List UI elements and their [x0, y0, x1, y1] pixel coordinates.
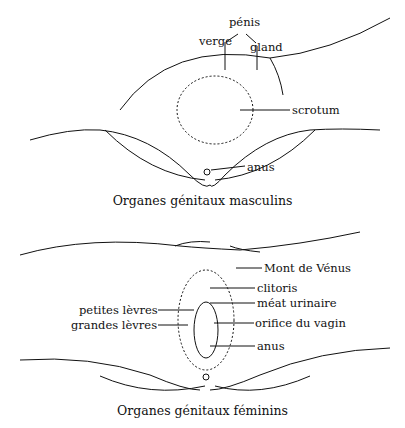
caption-male: Organes génitaux masculins — [0, 193, 405, 208]
label-scrotum: scrotum — [292, 104, 340, 116]
label-male-anus: anus — [247, 161, 275, 173]
female-leader-lines — [158, 268, 262, 346]
label-mons: Mont de Vénus — [264, 262, 351, 274]
label-urethral-opening: méat urinaire — [257, 297, 337, 309]
label-shaft: verge — [199, 35, 232, 47]
label-penis: pénis — [229, 16, 260, 28]
label-clitoris: clitoris — [257, 282, 297, 294]
caption-female: Organes génitaux féminins — [0, 403, 405, 418]
label-glans: gland — [250, 41, 283, 53]
label-labia-minora: petites lèvres — [79, 304, 158, 316]
diagram-line-art — [0, 0, 405, 428]
label-labia-majora: grandes lèvres — [71, 319, 157, 331]
label-vaginal-opening: orifice du vagin — [255, 317, 346, 329]
label-female-anus: anus — [257, 340, 285, 352]
female-figure-outline — [20, 232, 390, 390]
